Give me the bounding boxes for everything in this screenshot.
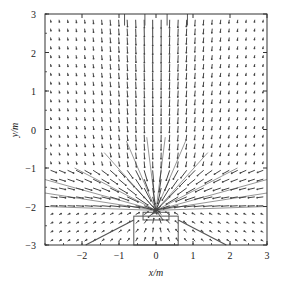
vector-arrow bbox=[85, 179, 92, 182]
vector-arrow bbox=[258, 170, 264, 172]
vector-arrow bbox=[102, 206, 111, 207]
vector-arrow bbox=[144, 170, 147, 180]
vector-field-chart: −2−10123 3210−1−2−3 x/m y/m bbox=[0, 0, 283, 286]
vector-arrow bbox=[249, 188, 255, 189]
vector-arrow bbox=[85, 197, 92, 198]
vector-arrow bbox=[119, 188, 127, 193]
y-axis-label: y/m bbox=[9, 123, 20, 138]
vector-arrow bbox=[214, 188, 221, 190]
vector-arrow bbox=[178, 188, 187, 194]
vector-arrow bbox=[240, 179, 246, 181]
vector-arrow bbox=[93, 197, 101, 199]
vector-arrow bbox=[223, 179, 230, 182]
x-axis-ticks: −2−10123 bbox=[45, 14, 270, 261]
vector-arrow bbox=[51, 188, 57, 189]
vector-arrow bbox=[196, 188, 204, 192]
left-slope bbox=[86, 220, 134, 245]
y-tick-label: −2 bbox=[25, 202, 36, 213]
vector-arrow bbox=[110, 206, 119, 207]
vector-arrow bbox=[197, 170, 203, 175]
vector-arrow bbox=[119, 197, 129, 201]
flow-ray bbox=[104, 153, 156, 211]
y-axis-ticks: 3210−1−2−3 bbox=[25, 9, 267, 251]
vector-arrow bbox=[215, 170, 221, 174]
vector-arrow bbox=[119, 170, 125, 176]
vector-arrow bbox=[136, 179, 142, 188]
vector-arrow bbox=[170, 188, 179, 197]
vector-arrow bbox=[249, 170, 255, 172]
vector-arrow bbox=[68, 188, 74, 190]
vector-arrow bbox=[205, 188, 213, 191]
vector-arrow bbox=[240, 188, 246, 190]
y-tick-label: 3 bbox=[31, 9, 36, 20]
vector-arrow bbox=[189, 170, 195, 176]
x-tick-label: 3 bbox=[265, 250, 270, 261]
vector-arrow bbox=[231, 179, 237, 181]
vector-arrow bbox=[249, 179, 255, 181]
x-tick-label: −2 bbox=[77, 250, 88, 261]
x-tick-label: −1 bbox=[114, 250, 125, 261]
vector-arrow bbox=[213, 206, 221, 207]
vector-arrow bbox=[68, 170, 74, 173]
vector-arrow bbox=[222, 197, 229, 198]
vector-arrow bbox=[102, 170, 108, 175]
vector-arrow bbox=[119, 179, 126, 185]
vector-arrow bbox=[51, 179, 57, 181]
y-tick-label: −3 bbox=[25, 240, 36, 251]
vector-arrow bbox=[51, 197, 57, 198]
vector-arrow bbox=[93, 170, 99, 174]
vector-arrow bbox=[197, 179, 204, 184]
vector-arrow bbox=[204, 197, 212, 199]
vector-arrow bbox=[204, 206, 212, 207]
vector-arrow bbox=[76, 179, 82, 181]
vector-arrow bbox=[85, 188, 92, 190]
vector-arrow bbox=[127, 170, 133, 178]
vector-arrow bbox=[110, 170, 116, 175]
vector-arrow bbox=[257, 188, 263, 189]
vector-arrow bbox=[59, 188, 65, 189]
vector-arrow bbox=[51, 170, 57, 172]
vector-arrow bbox=[205, 179, 212, 183]
vector-arrow bbox=[257, 197, 263, 198]
vector-arrow bbox=[222, 188, 229, 190]
x-tick-label: 0 bbox=[154, 250, 159, 261]
y-tick-label: −1 bbox=[25, 163, 36, 174]
x-axis-label: x/m bbox=[148, 267, 163, 278]
vector-arrow bbox=[240, 170, 246, 173]
vector-arrow bbox=[59, 197, 65, 198]
x-tick-label: 1 bbox=[191, 250, 196, 261]
vector-arrow bbox=[127, 188, 136, 195]
vector-arrow bbox=[59, 179, 65, 181]
vector-arrow bbox=[206, 170, 212, 174]
x-tick-label: 2 bbox=[228, 250, 233, 261]
y-tick-label: 2 bbox=[31, 48, 36, 59]
vector-arrow bbox=[93, 188, 100, 191]
vector-arrows bbox=[45, 20, 267, 241]
vector-arrow bbox=[127, 179, 134, 186]
vector-arrow bbox=[213, 197, 221, 199]
vector-arrow bbox=[110, 179, 117, 184]
vector-arrow bbox=[102, 188, 110, 191]
vector-arrow bbox=[173, 170, 178, 179]
vector-arrow bbox=[195, 206, 204, 207]
vector-arrow bbox=[59, 170, 65, 172]
vector-arrow bbox=[248, 197, 254, 198]
y-tick-label: 0 bbox=[31, 125, 36, 136]
y-tick-label: 1 bbox=[31, 86, 36, 97]
vector-arrow bbox=[68, 179, 74, 181]
vector-arrow bbox=[93, 206, 101, 207]
vector-arrow bbox=[188, 179, 195, 185]
right-slope bbox=[178, 220, 226, 245]
